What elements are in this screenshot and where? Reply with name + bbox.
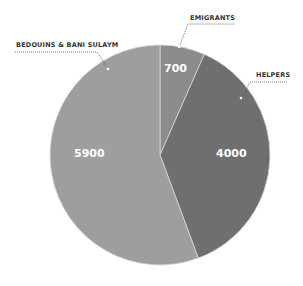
slice-value-bedouins: 5900 (74, 147, 105, 160)
pie-chart: EMIGRANTS HELPERS BEDOUINS & BANI SULAYM… (0, 0, 303, 286)
slice-label-helpers: HELPERS (256, 71, 290, 79)
callout-dot-helpers (240, 97, 243, 100)
slice-label-emigrants: EMIGRANTS (190, 14, 235, 22)
callout-dot-emigrants (178, 46, 181, 49)
slice-label-bedouins: BEDOUINS & BANI SULAYM (16, 41, 119, 49)
callout-line-bedouins (15, 52, 107, 67)
callout-dot-bedouins (107, 68, 110, 71)
callout-line-emigrants (180, 24, 235, 45)
slice-value-helpers: 4000 (216, 147, 247, 160)
slice-value-emigrants: 700 (164, 62, 187, 75)
